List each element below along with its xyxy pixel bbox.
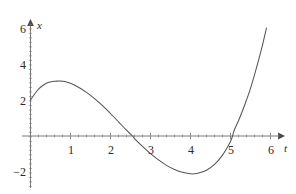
x-tick-label-5: 5	[226, 144, 236, 156]
x-tick-label-3: 3	[146, 144, 156, 156]
y-tick-label-2: 2	[14, 95, 26, 107]
y-axis-label: x	[37, 20, 42, 31]
y-tick-label-4: 4	[14, 59, 26, 71]
y-tick-label-minus-2: −2	[7, 166, 26, 178]
plot-canvas	[0, 0, 296, 194]
x-axis-label: t	[284, 143, 287, 154]
x-axis-arrow-icon	[278, 133, 285, 140]
x-tick-label-1: 1	[66, 144, 76, 156]
x-tick-label-2: 2	[106, 144, 116, 156]
y-tick-label-6: 6	[14, 23, 26, 35]
y-axis-arrow-icon	[27, 19, 34, 26]
x-tick-label-4: 4	[186, 144, 196, 156]
tick-marks	[29, 24, 279, 186]
chart-figure: 6 4 2 −2 1 2 3 4 5 6 x t	[0, 0, 296, 194]
x-tick-label-6: 6	[266, 144, 276, 156]
